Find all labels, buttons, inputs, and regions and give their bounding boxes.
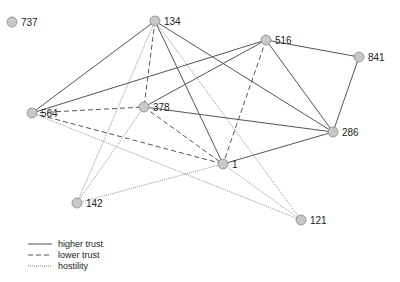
node-841[interactable]: 841: [354, 52, 385, 63]
edge-higher-378-286: [144, 107, 333, 132]
node-circle-icon[interactable]: [139, 102, 149, 112]
node-label: 841: [368, 52, 385, 63]
node-label: 134: [164, 16, 181, 27]
edge-hostility-1-121: [223, 164, 301, 220]
node-circle-icon[interactable]: [72, 198, 82, 208]
edges-layer: [32, 21, 359, 220]
edge-hostility-378-142: [77, 107, 144, 203]
node-label: 737: [21, 17, 38, 28]
edge-higher-516-564: [32, 40, 266, 113]
legend-higher-trust: higher trust: [28, 238, 103, 249]
edge-lower-516-1: [223, 40, 266, 164]
edge-lower-564-1: [32, 113, 223, 164]
legend-label: hostility: [58, 261, 88, 271]
node-label: 121: [310, 215, 327, 226]
node-564[interactable]: 564: [27, 108, 58, 119]
edge-higher-841-286: [333, 57, 359, 132]
node-121[interactable]: 121: [296, 215, 327, 226]
edge-higher-516-286: [266, 40, 333, 132]
node-516[interactable]: 516: [261, 35, 292, 46]
node-label: 516: [275, 35, 292, 46]
node-circle-icon[interactable]: [7, 17, 17, 27]
node-circle-icon[interactable]: [27, 108, 37, 118]
node-label: 1: [232, 159, 238, 170]
edge-higher-134-564: [32, 21, 155, 113]
node-737[interactable]: 737: [7, 17, 38, 28]
dotted-line-icon: [28, 264, 52, 268]
node-label: 564: [41, 108, 58, 119]
node-142[interactable]: 142: [72, 198, 103, 209]
node-circle-icon[interactable]: [296, 215, 306, 225]
node-134[interactable]: 134: [150, 16, 181, 27]
node-circle-icon[interactable]: [354, 52, 364, 62]
edge-higher-516-378: [144, 40, 266, 107]
legend: higher trust lower trust hostility: [28, 238, 103, 271]
edge-higher-286-1: [223, 132, 333, 164]
node-286[interactable]: 286: [328, 127, 359, 138]
node-label: 286: [342, 127, 359, 138]
legend-hostility: hostility: [28, 260, 103, 271]
solid-line-icon: [28, 242, 52, 246]
dashed-line-icon: [28, 253, 52, 257]
node-label: 142: [86, 198, 103, 209]
node-circle-icon[interactable]: [328, 127, 338, 137]
node-label: 378: [153, 102, 170, 113]
edge-hostility-134-121: [155, 21, 301, 220]
node-circle-icon[interactable]: [150, 16, 160, 26]
node-1[interactable]: 1: [218, 159, 238, 170]
node-378[interactable]: 378: [139, 102, 170, 113]
legend-label: higher trust: [58, 239, 103, 249]
node-circle-icon[interactable]: [261, 35, 271, 45]
legend-label: lower trust: [58, 250, 100, 260]
node-circle-icon[interactable]: [218, 159, 228, 169]
legend-lower-trust: lower trust: [28, 249, 103, 260]
